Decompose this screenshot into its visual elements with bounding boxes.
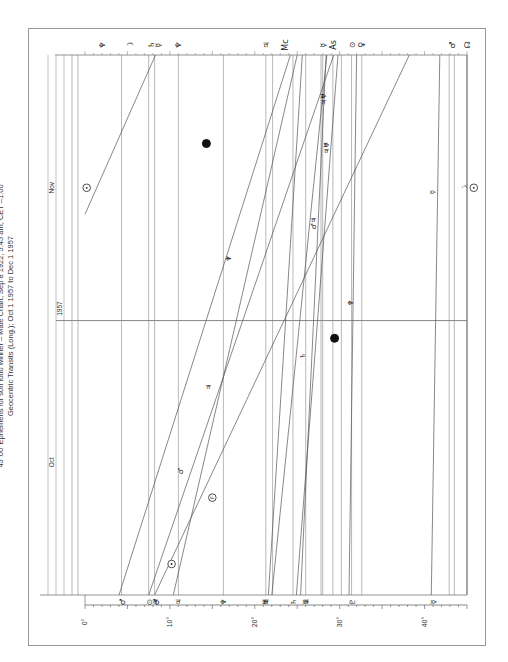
transit-line-mars [119,55,290,595]
top-planet-label: Mc [281,39,290,50]
transit-line-neptune [296,55,338,595]
event-marker-glyph: ♆ [225,255,233,261]
event-markers: F♂♃♄☿♆♆♂♃♃♅♃♅☽ [83,93,478,568]
top-planet-label: ♂ [448,41,457,48]
degree-tick-label: 10° [166,617,173,628]
top-planet-label: ☊ [463,41,472,48]
natal-planet-label: ☿ [429,600,438,605]
degree-tick-label: 20° [251,617,258,628]
event-marker-glyph: ♂ [177,468,185,474]
moon-phase-marker [331,334,339,342]
degree-tick-label: 30° [336,617,343,628]
sun-dot [171,563,173,565]
transit-line-uranus [301,55,327,595]
transit-line-pluto [349,55,357,595]
event-marker-glyph: ♃♅ [323,142,331,155]
transit-line-saturn [268,55,302,595]
natal-planet-label: ♃ [262,599,271,606]
month-strip: 1957OctNov [48,55,467,595]
event-marker-glyph: ♃ [205,384,213,390]
top-planet-labels: ♆☽♄☿♆♃Mc☿As⊙♀♂☊ [98,39,472,50]
transit-series [85,55,467,595]
top-planet-label: ♀ [357,42,366,48]
degree-tick-label: 0° [81,618,88,625]
top-planet-label: ⊙ [348,42,357,49]
top-planet-label: ☿ [319,43,328,48]
ephemeris-chart: 1957OctNov 0°10°20°30°40° ♆☽♄☿♆♃Mc☿As⊙♀♂… [0,0,508,662]
month-label: Nov [48,181,55,193]
natal-vertical-lines [72,55,454,595]
top-planet-label: ♃ [262,41,271,48]
event-marker-glyph: ♆ [347,300,355,306]
transit-line-sun-late [85,55,156,214]
natal-planet-label: ♃ [302,599,311,606]
degree-tick-label: 40° [421,617,428,628]
event-marker-glyph: ☿ [429,190,437,194]
top-planet-label: ♆ [98,41,107,48]
transit-line-mercury-retro [272,55,327,595]
natal-planet-label: ♂ [118,598,127,605]
top-planet-label: ☽ [126,41,135,48]
natal-planet-label: ♆ [219,599,228,606]
event-marker-glyph: ♃♅ [320,93,328,106]
top-planet-label: As [329,40,338,50]
natal-planet-label: ♃ [174,599,183,606]
event-marker-glyph: ☽ [461,185,469,191]
moon-phase-marker [202,140,210,148]
event-marker-glyph: ♂♃ [310,217,318,230]
transit-line-sun [155,55,410,595]
event-marker-glyph: ♄ [299,353,307,359]
fortune-label: F [209,496,215,499]
month-label: Oct [48,457,55,467]
degree-axis: 0°10°20°30°40° [40,51,467,627]
sun-dot [473,187,475,189]
year-label: 1957 [56,301,63,316]
natal-planet-label: ♂ [152,598,161,605]
natal-planet-labels: ♂⊙♃♂♃♆♅♃♄☿♃♇☿ [118,598,439,605]
sun-dot [86,187,88,189]
natal-planet-label: ♇ [348,599,357,606]
transit-line-mercury [431,55,440,595]
transit-line-jupiter-fast [173,55,297,595]
top-planet-label: ♆ [174,41,183,48]
natal-planet-label: ♄ [289,599,298,606]
top-planet-label: ☿ [154,43,163,48]
